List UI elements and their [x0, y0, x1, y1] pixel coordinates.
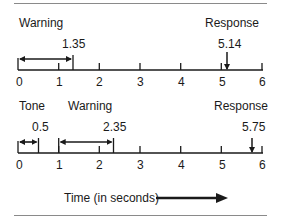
time-arrow-head-icon	[216, 193, 228, 203]
panel-1-response-label: Response	[205, 17, 259, 29]
panel-2-tick-2: 2	[96, 159, 103, 171]
panel-2-warning-label: Warning	[68, 100, 112, 112]
panel-2-response-value: 5.75	[242, 121, 265, 133]
panel-1-response-value: 5.14	[218, 38, 241, 50]
x-axis-label: Time (in seconds)	[64, 192, 159, 204]
panel-2-tone-label: Tone	[19, 100, 45, 112]
panel-1-tick-2: 2	[96, 76, 103, 88]
panel-2-tone-value: 0.5	[32, 121, 49, 133]
panel-1-tick-0: 0	[16, 76, 23, 88]
panel-2-axis	[18, 138, 263, 153]
panel-2-tick-6: 6	[259, 159, 266, 171]
panel-2-tick-3: 3	[137, 159, 144, 171]
panel-1-tick-5: 5	[219, 76, 226, 88]
panel-1-warning-label: Warning	[19, 17, 63, 29]
panel-2-tick-4: 4	[178, 159, 185, 171]
panel-1-warning-value: 1.35	[62, 38, 85, 50]
panel-2-tick-1: 1	[56, 159, 63, 171]
panel-2-warning-value: 2.35	[103, 121, 126, 133]
panel-1-tick-6: 6	[259, 76, 266, 88]
panel-2-tick-5: 5	[219, 159, 226, 171]
panel-2-response-label: Response	[214, 100, 268, 112]
panel-2-tick-0: 0	[16, 159, 23, 171]
panel-1-tick-3: 3	[137, 76, 144, 88]
panel-1-tick-1: 1	[56, 76, 63, 88]
panel-1-tick-4: 4	[178, 76, 185, 88]
